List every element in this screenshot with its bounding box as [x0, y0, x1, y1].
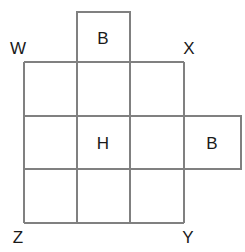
vertex-label-z: Z [13, 229, 23, 246]
net-diagram-figure: BBHWXZY [0, 0, 245, 252]
diagram-canvas [0, 0, 245, 252]
vertex-label-w: W [10, 40, 26, 57]
top-flap-label: B [97, 30, 108, 47]
center-cell-label: H [97, 135, 109, 152]
right-flap-label: B [206, 135, 217, 152]
vertex-label-x: X [183, 40, 194, 57]
vertex-label-y: Y [182, 229, 193, 246]
